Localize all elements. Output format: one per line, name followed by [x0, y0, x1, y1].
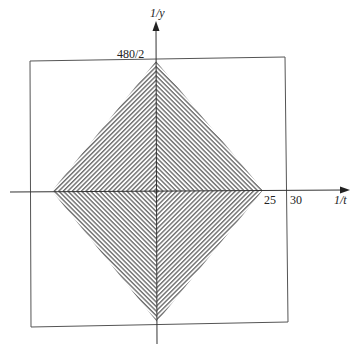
region-diagram: [0, 0, 358, 358]
y-axis-label: 1/y: [150, 7, 165, 19]
diamond-lower-right: [156, 190, 263, 322]
diamond-lower-left: [52, 191, 157, 322]
diamond-upper-left: [52, 61, 156, 191]
y-tick-label: 480/2: [117, 48, 144, 60]
x-axis-label: 1/t: [334, 194, 347, 206]
diamond-upper-right: [156, 61, 263, 191]
y-axis-arrow-icon: [153, 21, 160, 31]
x-tick-label-25: 25: [264, 194, 276, 206]
x-tick-label-30: 30: [290, 194, 302, 206]
